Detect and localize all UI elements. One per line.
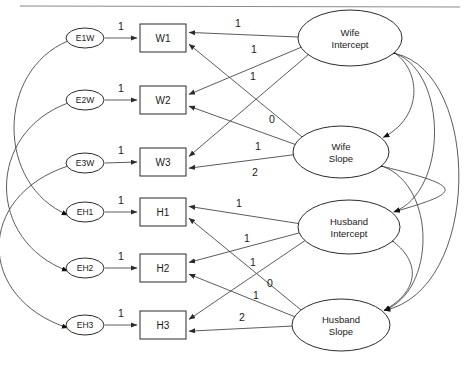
loading-ws-w3 [189, 155, 294, 168]
cov-e2w-eh2 [7, 103, 69, 271]
indicator-label: W1 [156, 33, 171, 44]
error-term-eh3: EH3 [66, 315, 104, 335]
cov-ws-hi [383, 167, 445, 212]
latent-hi: HusbandIntercept [298, 200, 400, 254]
cov-e1w-eh1 [14, 41, 68, 215]
coef-eh1-h1: 1 [118, 194, 124, 206]
latent-hs: HusbandSlope [292, 299, 390, 351]
coef-eh2-h2: 1 [118, 250, 124, 262]
diagram-canvas: W1W2W3H1H2H3 E1WE2WE3WEH1EH2EH3 WifeInte… [0, 0, 475, 366]
indicator-w1: W1 [140, 24, 186, 52]
coef-e3w-w3: 1 [118, 144, 124, 156]
loading-ws-w2 [189, 106, 296, 144]
coef-wi-w3: 1 [250, 70, 256, 82]
indicator-label: H2 [157, 263, 170, 274]
coef-wi-w1: 1 [235, 17, 241, 29]
latent-label-line2: Intercept [332, 39, 369, 50]
indicator-group: W1W2W3H1H2H3 [140, 24, 186, 339]
indicator-label: W3 [156, 157, 171, 168]
loading-wi-w1 [189, 32, 299, 37]
latent-label-line1: Wife [341, 27, 360, 38]
indicator-h1: H1 [140, 198, 186, 226]
latent-covariance-group [383, 54, 459, 311]
error-covariance-group [0, 41, 68, 328]
coef-hi-h2: 1 [244, 232, 250, 244]
latent-label-line1: Wife [332, 141, 351, 152]
latent-label-line1: Husband [322, 314, 360, 325]
error-label: E1W [76, 33, 94, 43]
loading-wi-w2 [189, 47, 301, 94]
error-term-eh2: EH2 [66, 258, 104, 278]
error-label: EH2 [77, 263, 94, 273]
latent-ws: WifeSlope [293, 126, 389, 178]
indicator-h2: H2 [140, 254, 186, 282]
loading-hs-h3 [189, 326, 293, 331]
coef-hi-h1: 1 [236, 197, 242, 209]
error-term-e3w: E3W [66, 153, 104, 173]
loading-hi-h1 [189, 206, 299, 223]
latent-label-line2: Slope [329, 326, 353, 337]
loading-hi-h3 [189, 240, 305, 319]
error-label: EH3 [77, 320, 94, 330]
cov-wi-hi [394, 54, 435, 212]
loading-ws-w1 [189, 44, 302, 137]
coef-hi-h3: 1 [250, 256, 256, 268]
error-label: E3W [76, 158, 94, 168]
error-term-group: E1WE2WE3WEH1EH2EH3 [66, 28, 104, 335]
latent-label-line2: Intercept [331, 228, 368, 239]
indicator-label: H3 [157, 320, 170, 331]
error-term-eh1: EH1 [66, 202, 104, 222]
error-term-e2w: E2W [66, 90, 104, 110]
coef-eh3-h3: 1 [118, 307, 124, 319]
sem-path-diagram: W1W2W3H1H2H3 E1WE2WE3WEH1EH2EH3 WifeInte… [0, 0, 475, 366]
coef-e2w-w2: 1 [118, 82, 124, 94]
top-divider-rule [20, 6, 460, 7]
coef-e1w-w1: 1 [118, 20, 124, 32]
cov-wi-ws [383, 54, 414, 138]
cov-wi-hs [384, 54, 459, 311]
coef-ws-w2: 1 [255, 140, 261, 152]
coef-ws-w1: 0 [269, 113, 275, 125]
error-path-e3w [105, 162, 137, 163]
indicator-h3: H3 [140, 311, 186, 339]
coef-hs-h1: 0 [267, 277, 273, 289]
latent-wi: WifeIntercept [298, 10, 402, 66]
coef-ws-w3: 2 [252, 166, 258, 178]
cov-e3w-eh3 [0, 166, 68, 328]
indicator-w2: W2 [140, 86, 186, 114]
indicator-label: H1 [157, 207, 170, 218]
coef-hs-h2: 1 [253, 289, 259, 301]
error-label: E2W [76, 95, 94, 105]
error-label: EH1 [77, 207, 94, 217]
coef-hs-h3: 2 [239, 311, 245, 323]
indicator-label: W2 [156, 95, 171, 106]
indicator-w3: W3 [140, 148, 186, 176]
error-term-e1w: E1W [66, 28, 104, 48]
factor-loading-group [189, 32, 309, 331]
coef-wi-w2: 1 [251, 43, 257, 55]
latent-variable-group: WifeInterceptWifeSlopeHusbandInterceptHu… [292, 10, 402, 351]
latent-label-line2: Slope [329, 153, 353, 164]
latent-label-line1: Husband [330, 216, 368, 227]
